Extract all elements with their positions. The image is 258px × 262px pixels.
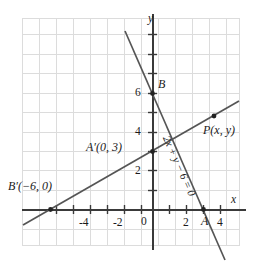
graph-figure: -4 -2 0 2 4 2 4 6 x y B′(−6, 0) A′(0, 3)… xyxy=(0,0,258,262)
y-tick-label-4: 4 xyxy=(135,126,141,138)
y-axis-label: y xyxy=(148,13,153,25)
point-B-prime xyxy=(48,207,53,212)
y-tick-label-6: 6 xyxy=(135,87,141,99)
point-B xyxy=(150,91,155,96)
point-A xyxy=(201,207,206,212)
x-tick-label--2: -2 xyxy=(113,217,123,229)
line-ascending xyxy=(23,101,239,225)
point-P xyxy=(212,114,217,119)
point-label-a-prime: A′(0, 3) xyxy=(86,141,122,153)
point-label-b: B xyxy=(158,78,165,90)
x-axis-label: x xyxy=(231,194,236,206)
y-tick-label-2: 2 xyxy=(135,165,141,177)
point-label-a: A xyxy=(201,215,208,227)
point-label-p: P(x, y) xyxy=(203,124,235,136)
point-label-b-prime: B′(−6, 0) xyxy=(8,180,52,192)
x-tick-label-2: 2 xyxy=(183,217,189,229)
x-tick-label-0: 0 xyxy=(141,216,147,228)
point-A-prime xyxy=(150,149,155,154)
x-tick-label-4: 4 xyxy=(217,217,223,229)
x-tick-label--4: -4 xyxy=(79,217,89,229)
